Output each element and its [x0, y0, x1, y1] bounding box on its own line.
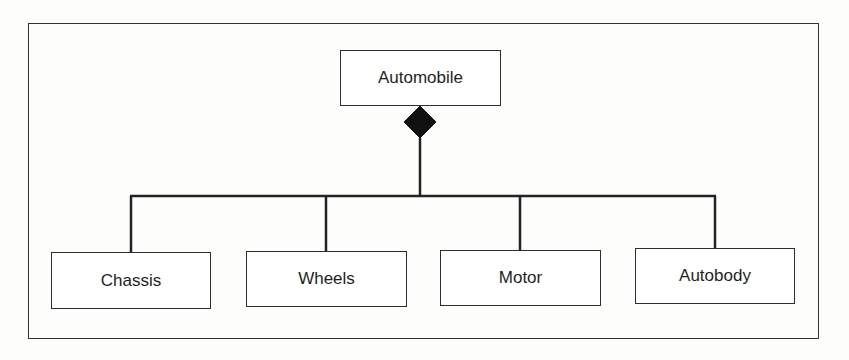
node-automobile-label: Automobile: [378, 68, 463, 88]
node-motor-label: Motor: [499, 268, 542, 288]
node-wheels-label: Wheels: [298, 269, 355, 289]
node-autobody[interactable]: Autobody: [635, 248, 795, 304]
node-chassis[interactable]: Chassis: [51, 252, 211, 309]
node-wheels[interactable]: Wheels: [246, 251, 407, 307]
node-autobody-label: Autobody: [679, 266, 751, 286]
node-motor[interactable]: Motor: [440, 250, 601, 306]
node-chassis-label: Chassis: [101, 271, 161, 291]
diagram-canvas: Automobile Chassis Wheels Motor Autobody: [0, 0, 849, 360]
node-automobile[interactable]: Automobile: [340, 50, 501, 106]
